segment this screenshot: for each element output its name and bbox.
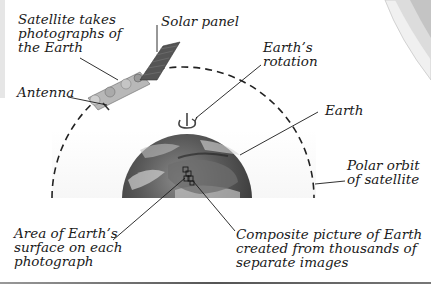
label-antenna: Antenna [17, 85, 74, 99]
label-polar-orbit: Polar orbit of satellite [347, 158, 420, 186]
label-earths-rotation: Earth’s rotation [263, 40, 318, 68]
rotation-arrow-icon [179, 113, 197, 128]
bottom-divider [0, 282, 431, 284]
solar-panel-shape [140, 42, 180, 80]
label-area-per-photo: Area of Earth’s surface on each photogra… [14, 226, 122, 268]
label-composite-picture: Composite picture of Earth created from … [236, 227, 422, 269]
label-satellite: Satellite takes photographs of the Earth [18, 12, 122, 54]
diagram-stage: Satellite takes photographs of the Earth… [0, 0, 431, 293]
earth-globe [122, 134, 252, 264]
corner-globe-shade [385, 0, 431, 80]
label-earth: Earth [325, 103, 363, 117]
label-solar-panel: Solar panel [161, 14, 239, 28]
